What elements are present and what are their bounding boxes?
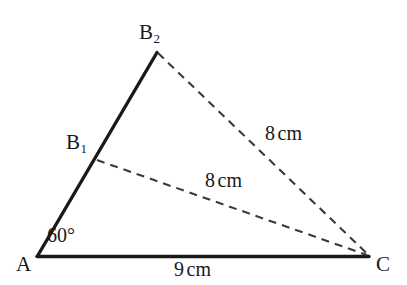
measure-value-segment-b2c: 8: [265, 122, 275, 144]
geometry-figure: B2 B1 A C 60° 9cm 8cm 8cm: [0, 0, 407, 285]
segment-chord-b2c: [158, 53, 368, 254]
measure-label-segment-b1c: 8cm: [205, 170, 242, 190]
measure-value-side-ac: 9: [174, 258, 184, 280]
vertex-label-b2: B2: [139, 22, 160, 45]
angle-label-a: 60°: [47, 225, 75, 245]
vertex-label-a: A: [16, 254, 31, 275]
vertex-label-b1-text: B: [66, 130, 80, 154]
vertex-label-c: C: [376, 254, 390, 275]
vertex-label-b2-text: B: [139, 20, 153, 44]
vertex-label-b1: B1: [66, 132, 87, 155]
measure-unit-segment-b2c: cm: [275, 122, 302, 144]
vertex-label-b1-subscript: 1: [80, 141, 87, 156]
measure-value-segment-b1c: 8: [205, 169, 215, 191]
measure-unit-side-ac: cm: [184, 258, 211, 280]
measure-unit-segment-b1c: cm: [215, 169, 242, 191]
measure-label-segment-b2c: 8cm: [265, 123, 302, 143]
measure-label-side-ac: 9cm: [174, 259, 211, 279]
vertex-label-b2-subscript: 2: [153, 31, 160, 46]
